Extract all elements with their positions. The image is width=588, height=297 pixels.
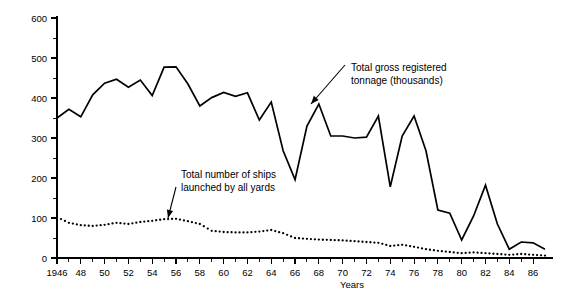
ships-dot (111, 222, 113, 224)
ships-dot (119, 222, 121, 224)
ships-dot (215, 230, 217, 232)
ships-dot (76, 223, 78, 225)
ships-dot (155, 219, 157, 221)
ships-dot (68, 222, 70, 224)
ships-dot (520, 253, 522, 255)
x-tick-label-1984: 84 (504, 267, 515, 278)
ships-dot (484, 252, 486, 254)
y-tick-label-300: 300 (31, 133, 47, 144)
ships-dot (88, 225, 90, 227)
ships-dot (147, 220, 149, 222)
x-tick-label-1960: 60 (218, 267, 229, 278)
ships-dot (409, 245, 411, 247)
ships-dot (353, 240, 355, 242)
ships-dot (496, 253, 498, 255)
annotation-tonnage-line1: Total gross registered (351, 62, 447, 73)
ships-dot (318, 238, 320, 240)
ships-dot (282, 232, 284, 234)
x-tick-label-1982: 82 (480, 267, 491, 278)
ships-dot (476, 252, 478, 254)
shipbuilding-line-chart: 0100200300400500600 19464850525456586062… (0, 0, 588, 297)
ships-dot (203, 225, 205, 227)
ships-dot (286, 234, 288, 236)
x-tick-label-1962: 62 (242, 267, 253, 278)
ships-dot (417, 246, 419, 248)
ships-dot (96, 224, 98, 226)
ships-dot (92, 225, 94, 227)
ships-dot (64, 220, 66, 222)
ships-dot (405, 244, 407, 246)
ships-dot (441, 250, 443, 252)
ships-dot (123, 222, 125, 224)
ships-dot (278, 231, 280, 233)
ships-dot (207, 227, 209, 229)
ships-dot (465, 252, 467, 254)
ships-dot (401, 244, 403, 246)
y-tick-label-100: 100 (31, 213, 47, 224)
ships-dot (461, 252, 463, 254)
ships-dot (373, 241, 375, 243)
ships-dot (326, 239, 328, 241)
ships-dot (234, 231, 236, 233)
ships-dot (365, 241, 367, 243)
ships-dot (413, 246, 415, 248)
x-tick-label-1948: 48 (76, 267, 87, 278)
y-tick-label-400: 400 (31, 93, 47, 104)
ships-dot (381, 243, 383, 245)
ships-dot (437, 250, 439, 252)
ships-dot (488, 252, 490, 254)
axes-group: 0100200300400500600 19464850525456586062… (31, 13, 553, 279)
x-axis-title: Years (340, 279, 364, 290)
series-total-gross-registered-tonnage (57, 67, 545, 249)
ships-dot (540, 254, 542, 256)
y-tick-label-500: 500 (31, 53, 47, 64)
ships-dot (453, 251, 455, 253)
ships-dot (270, 229, 272, 231)
ships-dot (56, 216, 58, 218)
x-tick-label-1968: 68 (314, 267, 325, 278)
ships-dot (222, 231, 224, 233)
ships-dot (480, 252, 482, 254)
ships-dot (143, 220, 145, 222)
annotation-tonnage: Total gross registered tonnage (thousand… (311, 62, 447, 104)
ships-dot (512, 253, 514, 255)
ships-dot (357, 240, 359, 242)
ships-dot (238, 231, 240, 233)
ships-dot (175, 218, 177, 220)
ships-dot (298, 237, 300, 239)
ships-dot (516, 253, 518, 255)
series-total-number-of-ships-launched (56, 216, 546, 257)
ships-dot (294, 237, 296, 239)
ships-dot (338, 239, 340, 241)
ships-dot (310, 238, 312, 240)
ships-dot (457, 252, 459, 254)
ships-dot (532, 254, 534, 256)
ships-dot (468, 252, 470, 254)
ships-dot (306, 238, 308, 240)
x-tick-label-1952: 52 (123, 267, 134, 278)
series-group (56, 67, 546, 257)
ships-dot (60, 218, 62, 220)
ships-dot (472, 251, 474, 253)
ships-dot (425, 248, 427, 250)
ships-dot (167, 218, 169, 220)
ships-dot (246, 231, 248, 233)
x-tick-label-1966: 66 (290, 267, 301, 278)
ships-dot (163, 218, 165, 220)
ships-dot (250, 231, 252, 233)
ships-dot (135, 222, 137, 224)
ships-dot (131, 222, 133, 224)
y-tick-label-600: 600 (31, 13, 47, 24)
x-tick-label-1974: 74 (385, 267, 396, 278)
chart-container: 0100200300400500600 19464850525456586062… (0, 0, 588, 297)
ships-dot (369, 241, 371, 243)
ships-dot (342, 239, 344, 241)
x-tick-label-1972: 72 (361, 267, 372, 278)
y-axis-tick-labels: 0100200300400500600 (31, 13, 47, 264)
ships-dot (72, 222, 74, 224)
ships-dot (393, 244, 395, 246)
ships-dot (195, 222, 197, 224)
ships-dot (528, 253, 530, 255)
ships-dot (84, 224, 86, 226)
ships-dot (449, 251, 451, 253)
